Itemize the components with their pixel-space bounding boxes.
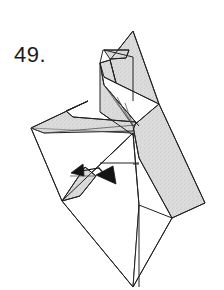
head-upper-shaded-panel: [110, 31, 159, 104]
origami-figure: [0, 0, 224, 290]
body-shaded-main-panel: [133, 104, 205, 218]
diagram-page: 49.: [0, 0, 224, 290]
